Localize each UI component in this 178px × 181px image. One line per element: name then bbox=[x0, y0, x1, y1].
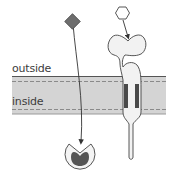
hydrophilic-ligand-group bbox=[116, 7, 130, 37]
signaling-diagram: outside inside bbox=[0, 0, 178, 181]
diamond-ligand-icon bbox=[65, 14, 81, 30]
diagram-canvas bbox=[0, 0, 178, 181]
hexagon-ligand-icon bbox=[116, 7, 130, 19]
inside-label: inside bbox=[12, 96, 43, 107]
transmembrane-segment-right bbox=[135, 84, 139, 108]
hexagon-ligand-arrow bbox=[123, 20, 128, 37]
intracellular-receptor bbox=[65, 144, 95, 169]
transmembrane-segment-left bbox=[124, 84, 128, 108]
outside-label: outside bbox=[12, 63, 51, 74]
